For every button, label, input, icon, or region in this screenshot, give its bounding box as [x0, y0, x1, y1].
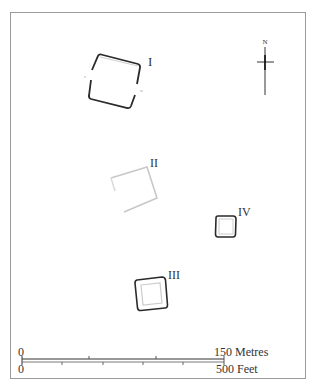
map-frame — [11, 13, 306, 379]
enclosure-ii-label: II — [150, 156, 158, 170]
enclosure-iii-label: III — [168, 268, 180, 282]
site-plan-map: I II IV III N 0 150 Metres — [0, 0, 315, 387]
scale-feet-end: 500 Feet — [216, 362, 258, 376]
scale-metres-end: 150 Metres — [214, 345, 269, 359]
enclosure-iv-label: IV — [238, 205, 251, 219]
enclosure-i-label: I — [148, 54, 152, 69]
scale-metres-start: 0 — [18, 345, 24, 359]
scale-feet-start: 0 — [18, 362, 24, 376]
north-label: N — [263, 38, 268, 46]
